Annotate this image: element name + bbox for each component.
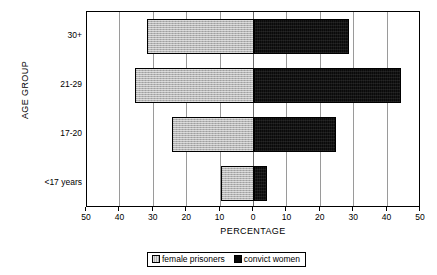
bar-female-prisoners (135, 68, 254, 102)
gray-swatch-icon (152, 255, 160, 263)
legend-item: female prisoners (152, 254, 225, 264)
y-axis-category-labels: 30+21-2917-20<17 years (16, 11, 82, 207)
bar-female-prisoners (221, 166, 254, 200)
x-axis-tick-label: 40 (104, 212, 134, 222)
x-axis-tick (285, 207, 286, 211)
plot-area (86, 11, 420, 207)
x-axis-tick (319, 207, 320, 211)
bar-group (87, 166, 419, 200)
bar-convict-women (254, 166, 267, 200)
x-axis-tick (219, 207, 220, 211)
y-axis-category-label: <17 years (20, 177, 82, 187)
x-axis-tick-label: 20 (171, 212, 201, 222)
bar-group (87, 19, 419, 53)
x-axis-tick-label: 40 (372, 212, 402, 222)
x-axis-tick (118, 207, 119, 211)
bar-female-prisoners (147, 19, 254, 53)
x-axis-tick-label: 50 (71, 212, 101, 222)
bar-female-prisoners (172, 117, 254, 151)
legend-label: convict women (244, 254, 300, 264)
y-axis-category-label: 17-20 (20, 128, 82, 138)
chart-legend: female prisonersconvict women (147, 252, 306, 267)
x-axis-tick-label: 10 (271, 212, 301, 222)
x-axis-tick-label: 30 (138, 212, 168, 222)
x-axis-tick (185, 207, 186, 211)
legend-item: convict women (234, 254, 300, 264)
bar-convict-women (254, 117, 336, 151)
x-axis-tick-label: 50 (405, 212, 435, 222)
x-axis-tick-label: 0 (238, 212, 268, 222)
bar-group (87, 68, 419, 102)
x-axis-tick (152, 207, 153, 211)
x-axis-tick-label: 30 (338, 212, 368, 222)
bar-group (87, 117, 419, 151)
y-axis-category-label: 21-29 (20, 79, 82, 89)
legend-label: female prisoners (162, 254, 225, 264)
x-axis-tick-label: 10 (205, 212, 235, 222)
x-axis-tick (252, 207, 253, 211)
bar-convict-women (254, 68, 401, 102)
x-axis-tick-label: 20 (305, 212, 335, 222)
x-axis-title: PERCENTAGE (86, 226, 420, 236)
y-axis-category-label: 30+ (20, 30, 82, 40)
x-axis-tick (419, 207, 420, 211)
bar-chart: AGE GROUP 30+21-2917-20<17 years 5040302… (0, 0, 437, 275)
x-axis-tick-labels: 504030201001020304050 (0, 212, 437, 226)
x-axis-tick (386, 207, 387, 211)
black-swatch-icon (234, 255, 242, 263)
x-axis-tick (352, 207, 353, 211)
x-axis-tick (85, 207, 86, 211)
bar-convict-women (254, 19, 349, 53)
